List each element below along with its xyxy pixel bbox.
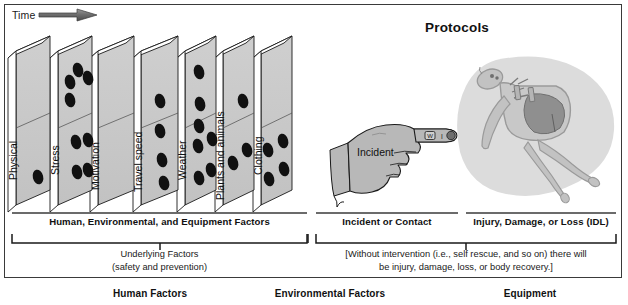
- section-title-idl: Injury, Damage, or Loss (IDL): [466, 216, 616, 227]
- bottom-label-equipment: Equipment: [440, 288, 620, 299]
- bracket-underlying-factors: [12, 234, 307, 243]
- section-title-incident: Incident or Contact: [316, 216, 458, 227]
- note-underlying-factors-line2: (safety and prevention): [12, 261, 307, 274]
- note-intervention: [Without intervention (i.e., self rescue…: [316, 248, 616, 273]
- note-intervention-line1: [Without intervention (i.e., self rescue…: [316, 248, 616, 261]
- bottom-label-environmental-factors: Environmental Factors: [230, 288, 430, 299]
- note-intervention-line2: be injury, damage, loss, or body recover…: [316, 261, 616, 274]
- bottom-label-human-factors: Human Factors: [60, 288, 240, 299]
- figure-root: Time Protocols: [0, 0, 628, 305]
- note-underlying-factors-line1: Underlying Factors: [12, 248, 307, 261]
- note-underlying-factors: Underlying Factors (safety and preventio…: [12, 248, 307, 273]
- section-title-factors: Human, Environmental, and Equipment Fact…: [12, 216, 307, 227]
- bracket-intervention: [316, 234, 616, 243]
